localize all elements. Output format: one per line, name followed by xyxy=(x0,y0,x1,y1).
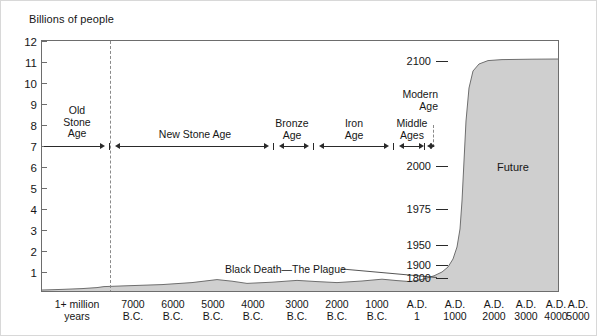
era-label-old-stone-age-line2: Stone xyxy=(63,116,90,128)
x-tick-label-7-line1: 1000 xyxy=(365,298,388,310)
era-tick-8000bc xyxy=(109,143,110,150)
era-label-modern-age-line1: Modern xyxy=(402,88,438,100)
era-line-old-stone-age xyxy=(44,146,102,147)
era-tick-ad500 xyxy=(393,143,394,150)
x-tick-label-5-line1: 3000 xyxy=(285,298,308,310)
x-tick-label-8-line2: 1 xyxy=(414,310,420,322)
year-dash-1950 xyxy=(436,245,448,246)
era-tick-2000bc xyxy=(313,143,314,150)
era-label-new-stone-age: New Stone Age xyxy=(140,129,250,141)
year-dash-1900 xyxy=(436,265,448,266)
era-label-bronze-age-line2: Age xyxy=(283,129,302,141)
y-tick-label-9: 9 xyxy=(17,100,37,112)
y-tick-label-10: 10 xyxy=(17,79,37,91)
x-tick-label-2-line1: 6000 xyxy=(161,298,184,310)
x-tick-label-11-line2: 3000 xyxy=(514,310,537,322)
era-line-new-stone-age xyxy=(120,146,266,147)
future-region-label: Future xyxy=(497,161,529,173)
era-label-middle-ages-line2: Ages xyxy=(400,129,424,141)
x-tick-label-2: 6000 B.C. xyxy=(153,298,193,322)
x-tick-label-6-line2: B.C. xyxy=(327,310,347,322)
era-label-modern-age: Modern Age xyxy=(390,89,438,112)
era-arrow-right-old-stone-age xyxy=(100,143,105,149)
y-axis-title: Billions of people xyxy=(29,13,114,25)
year-dash-1975 xyxy=(436,209,448,210)
x-tick-label-4-line1: 4000 xyxy=(241,298,264,310)
population-area-curve xyxy=(42,41,558,291)
y-tick-label-12: 12 xyxy=(17,37,37,49)
y-tick-label-1: 1 xyxy=(17,268,37,280)
era-arrow-right-modern-age xyxy=(430,143,435,149)
era-arrow-right-new-stone-age xyxy=(264,143,269,149)
x-tick-label-10-line1: A.D. xyxy=(484,298,504,310)
x-tick-label-0-line1: 1+ million xyxy=(55,298,100,310)
x-tick-label-3: 5000 B.C. xyxy=(193,298,233,322)
x-tick-label-9: A.D. 1000 xyxy=(435,298,475,322)
x-tick-label-1-line1: 7000 xyxy=(121,298,144,310)
year-label-1800: 1800 xyxy=(389,273,431,284)
x-tick-label-1: 7000 B.C. xyxy=(113,298,153,322)
x-tick-label-0-line2: years xyxy=(64,310,90,322)
era-tick-ad1500 xyxy=(424,143,425,150)
y-tick-label-7: 7 xyxy=(17,142,37,154)
era-label-modern-age-line2: Age xyxy=(419,100,438,112)
year-dash-2100 xyxy=(436,61,448,62)
era-label-old-stone-age: Old Stone Age xyxy=(54,105,100,140)
y-tick-label-11: 11 xyxy=(17,58,37,70)
era-label-old-stone-age-line1: Old xyxy=(69,104,85,116)
year-dash-1800 xyxy=(436,278,448,279)
x-tick-label-8-line1: A.D. xyxy=(407,298,427,310)
x-tick-label-9-line1: A.D. xyxy=(445,298,465,310)
era-label-old-stone-age-line3: Age xyxy=(68,127,87,139)
y-tick-label-6: 6 xyxy=(17,163,37,175)
year-label-1900: 1900 xyxy=(389,260,431,271)
y-tick-label-5: 5 xyxy=(17,184,37,196)
era-arrow-right-bronze-age xyxy=(304,143,309,149)
era-label-middle-ages-line1: Middle xyxy=(397,117,428,129)
y-tick-label-3: 3 xyxy=(17,226,37,238)
x-tick-label-3-line1: 5000 xyxy=(201,298,224,310)
era-tick-3000bc xyxy=(273,143,274,150)
population-growth-chart-figure: Billions of people 12 11 10 9 8 7 6 5 4 … xyxy=(0,0,597,336)
year-dash-2000 xyxy=(436,166,448,167)
y-tick-label-8: 8 xyxy=(17,121,37,133)
x-tick-label-2-line2: B.C. xyxy=(163,310,183,322)
x-tick-label-3-line2: B.C. xyxy=(203,310,223,322)
x-tick-label-13: A.D. 5000 xyxy=(558,298,597,322)
era-arrow-right-iron-age xyxy=(384,143,389,149)
year-label-1950: 1950 xyxy=(389,240,431,251)
y-tick-label-2: 2 xyxy=(17,247,37,259)
x-tick-label-5-line2: B.C. xyxy=(287,310,307,322)
x-tick-label-9-line2: 1000 xyxy=(443,310,466,322)
year-label-1975: 1975 xyxy=(389,204,431,215)
plot-area: Old Stone Age New Stone Age Bronze Age I… xyxy=(41,40,559,292)
x-tick-label-7: 1000 B.C. xyxy=(357,298,397,322)
plot-inner: Old Stone Age New Stone Age Bronze Age I… xyxy=(42,41,558,291)
x-tick-label-5: 3000 B.C. xyxy=(277,298,317,322)
x-tick-label-7-line2: B.C. xyxy=(367,310,387,322)
x-tick-label-6: 2000 B.C. xyxy=(317,298,357,322)
x-tick-label-0: 1+ million years xyxy=(39,298,115,322)
year-label-2000: 2000 xyxy=(389,161,431,172)
era-label-iron-age-line2: Age xyxy=(345,129,364,141)
era-line-bronze-age xyxy=(284,146,306,147)
x-tick-label-1-line2: B.C. xyxy=(123,310,143,322)
x-tick-label-4-line2: B.C. xyxy=(243,310,263,322)
era-label-bronze-age-line1: Bronze xyxy=(275,117,308,129)
x-tick-label-4: 4000 B.C. xyxy=(233,298,273,322)
y-tick-label-4: 4 xyxy=(17,205,37,217)
era-label-bronze-age: Bronze Age xyxy=(270,118,314,141)
black-death-annotation: Black Death—The Plague xyxy=(225,263,346,275)
x-tick-label-13-line1: A.D. xyxy=(568,298,588,310)
x-tick-label-10-line2: 2000 xyxy=(482,310,505,322)
population-area-fill xyxy=(42,59,558,291)
x-tick-label-8: A.D. 1 xyxy=(397,298,437,322)
x-tick-label-11-line1: A.D. xyxy=(516,298,536,310)
era-label-iron-age-line1: Iron xyxy=(345,117,363,129)
era-label-iron-age: Iron Age xyxy=(334,118,374,141)
year-label-2100: 2100 xyxy=(389,56,431,67)
era-label-middle-ages: Middle Ages xyxy=(390,118,434,141)
x-tick-label-6-line1: 2000 xyxy=(325,298,348,310)
x-tick-label-13-line2: 5000 xyxy=(566,310,589,322)
era-line-iron-age xyxy=(324,146,386,147)
